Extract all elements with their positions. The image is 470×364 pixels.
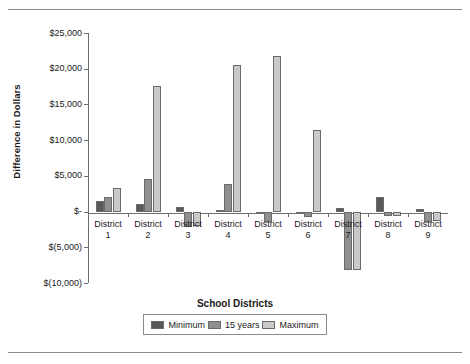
bar-group: District4 <box>208 33 248 283</box>
chart-legend: Minimum15 yearsMaximum <box>143 314 327 335</box>
bar-group: District5 <box>248 33 288 283</box>
bar-minimum <box>336 208 344 212</box>
legend-item[interactable]: Minimum <box>151 320 205 330</box>
y-axis-tick-label: $10,000 <box>0 136 82 145</box>
y-axis-tick-label: $- <box>0 207 82 216</box>
y-axis-tick-label: $(10,000) <box>0 279 82 288</box>
legend-swatch-icon <box>208 321 221 329</box>
chart-page: Difference in Dollars $25,000$20,000$15,… <box>0 0 470 364</box>
y-axis-tick-label: $20,000 <box>0 64 82 73</box>
bar-chart: Difference in Dollars $25,000$20,000$15,… <box>0 22 470 290</box>
bar-minimum <box>96 201 104 212</box>
bar-minimum <box>216 210 224 212</box>
y-axis-tick-label: $5,000 <box>0 171 82 180</box>
bar-group: District6 <box>288 33 328 283</box>
legend-item[interactable]: 15 years <box>208 320 260 330</box>
x-axis-group-tick <box>408 213 409 217</box>
x-axis-group-tick <box>288 213 289 217</box>
x-axis-category-line: 9 <box>405 230 451 241</box>
x-axis-group-tick <box>248 213 249 217</box>
x-axis-category-label: District9 <box>405 219 451 241</box>
bar-maximum <box>233 65 241 211</box>
bar-maximum <box>313 130 321 211</box>
y-axis-tick-label: $15,000 <box>0 100 82 109</box>
bar-group: District3 <box>168 33 208 283</box>
bar-15-years <box>224 184 232 212</box>
bottom-divider-rule <box>8 352 462 353</box>
bar-minimum <box>136 204 144 212</box>
legend-swatch-icon <box>262 321 275 329</box>
top-divider-rule <box>8 9 462 10</box>
y-axis-tick-label: $25,000 <box>0 29 82 38</box>
legend-item[interactable]: Maximum <box>262 320 318 330</box>
bar-maximum <box>153 86 161 212</box>
bar-minimum <box>256 212 264 214</box>
x-axis-group-tick <box>168 213 169 217</box>
bar-maximum <box>113 188 121 212</box>
bar-maximum <box>273 56 281 212</box>
legend-swatch-icon <box>151 321 164 329</box>
bar-maximum <box>393 212 401 216</box>
bar-minimum <box>376 197 384 211</box>
bar-15-years <box>144 179 152 212</box>
x-axis-group-tick <box>208 213 209 217</box>
bar-group: District7 <box>328 33 368 283</box>
x-axis-group-tick <box>368 213 369 217</box>
bar-minimum <box>176 207 184 211</box>
bar-group: District2 <box>128 33 168 283</box>
x-axis-category-line: District <box>405 219 451 230</box>
bar-group: District9 <box>408 33 448 283</box>
x-axis-title: School Districts <box>0 298 470 309</box>
bar-minimum <box>416 209 424 212</box>
legend-label: Maximum <box>279 320 318 330</box>
bar-group: District1 <box>88 33 128 283</box>
bar-15-years <box>104 197 112 212</box>
bar-group: District8 <box>368 33 408 283</box>
bar-minimum <box>296 212 304 214</box>
y-axis-tick-mark <box>84 283 88 284</box>
bar-15-years <box>304 212 312 217</box>
legend-label: 15 years <box>225 320 260 330</box>
bar-groups: District1District2District3District4Dist… <box>88 33 448 283</box>
bar-15-years <box>384 212 392 216</box>
x-axis-group-tick <box>328 213 329 217</box>
x-axis-group-tick <box>128 213 129 217</box>
y-axis-tick-label: $(5,000) <box>0 243 82 252</box>
clipped-header-text <box>98 0 258 7</box>
legend-label: Minimum <box>168 320 205 330</box>
plot-area: $25,000$20,000$15,000$10,000$5,000$-$(5,… <box>88 33 448 283</box>
